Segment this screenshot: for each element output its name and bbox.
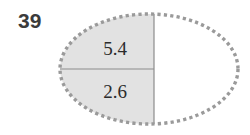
unshaded-fill <box>154 11 242 128</box>
region-label-bottom: 2.6 <box>85 81 145 103</box>
region-label-top: 5.4 <box>85 38 145 60</box>
ellipse-divided-diagram <box>58 11 242 128</box>
problem-number: 39 <box>18 9 41 33</box>
figure-panel: 39 5.4 2.6 <box>0 0 250 135</box>
